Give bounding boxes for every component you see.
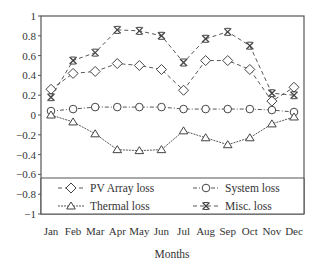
x-tick-label: Jul	[177, 225, 190, 237]
circle-marker	[246, 105, 254, 113]
y-tick-label: 1	[31, 10, 37, 22]
diamond-marker	[68, 68, 78, 78]
series-pv-array-loss	[46, 56, 299, 107]
x-axis-title: Months	[154, 248, 190, 260]
diamond-marker	[134, 61, 144, 71]
circle-marker	[113, 103, 121, 111]
x-tick-label: Feb	[65, 225, 82, 237]
diamond-marker	[223, 56, 233, 66]
x-tick-label: Oct	[242, 225, 258, 237]
x-tick-label: Sep	[219, 225, 236, 237]
triangle-marker	[223, 141, 232, 148]
triangle-marker	[113, 146, 122, 153]
diamond-marker	[245, 64, 255, 74]
y-tick-label: −0.6	[16, 168, 36, 180]
line-chart: 10.80.60.40.20−0.2−0.4−0.6−0.8−1 JanFebM…	[0, 0, 322, 269]
circle-marker	[202, 105, 210, 113]
x-tick-label: Aug	[196, 225, 215, 237]
x-tick-label: Jan	[44, 225, 59, 237]
circle-marker	[224, 105, 232, 113]
diamond-marker	[90, 66, 100, 76]
x-marker	[202, 35, 209, 42]
series-misc-loss	[48, 26, 298, 100]
diamond-marker	[112, 59, 122, 69]
y-axis: 10.80.60.40.20−0.2−0.4−0.6−0.8−1	[16, 10, 41, 220]
x-marker	[158, 32, 165, 39]
legend-label: Misc. loss	[225, 200, 272, 212]
legend-label: PV Array loss	[90, 182, 155, 195]
legend: PV Array lossSystem lossThermal lossMisc…	[41, 178, 304, 214]
series-line	[51, 107, 294, 112]
series-thermal-loss	[47, 111, 299, 154]
y-tick-label: −1	[24, 208, 36, 220]
x-marker	[92, 49, 99, 56]
triangle-marker	[246, 134, 255, 141]
circle-marker	[180, 105, 188, 113]
series-line	[51, 30, 294, 97]
triangle-marker	[91, 130, 100, 137]
y-tick-label: 0	[31, 109, 37, 121]
y-tick-label: 0.6	[22, 50, 36, 62]
y-tick-label: 0.2	[22, 89, 36, 101]
y-tick-label: −0.8	[16, 188, 36, 200]
circle-marker	[202, 184, 210, 192]
x-tick-label: May	[129, 225, 150, 237]
x-marker	[180, 59, 187, 66]
circle-marker	[268, 106, 276, 114]
x-marker	[224, 28, 231, 35]
series-system-loss	[47, 103, 298, 116]
circle-marker	[91, 103, 99, 111]
circle-marker	[158, 103, 166, 111]
diamond-marker	[46, 84, 56, 94]
x-tick-label: Dec	[285, 225, 303, 237]
x-marker	[246, 42, 253, 49]
triangle-marker	[179, 127, 188, 134]
y-tick-label: 0.4	[22, 69, 36, 81]
triangle-marker	[69, 118, 78, 125]
circle-marker	[136, 103, 144, 111]
x-tick-label: Mar	[86, 225, 105, 237]
x-tick-label: Jun	[154, 225, 170, 237]
y-tick-label: 0.8	[22, 30, 36, 42]
y-tick-label: −0.2	[16, 129, 36, 141]
x-axis: JanFebMarAprMayJunJulAugSepOctNovDec	[44, 225, 303, 237]
x-marker	[136, 27, 143, 34]
series-line	[51, 115, 294, 151]
series-layer	[46, 26, 299, 153]
diamond-marker	[289, 82, 299, 92]
x-marker	[70, 57, 77, 64]
series-line	[51, 61, 294, 102]
legend-label: System loss	[225, 182, 280, 195]
legend-label: Thermal loss	[90, 200, 150, 212]
circle-marker	[69, 105, 77, 113]
x-tick-label: Apr	[109, 225, 126, 237]
y-tick-label: −0.4	[16, 149, 36, 161]
x-tick-label: Nov	[262, 225, 281, 237]
diamond-marker	[267, 96, 277, 106]
diamond-marker	[201, 56, 211, 66]
